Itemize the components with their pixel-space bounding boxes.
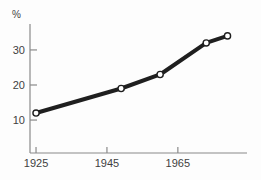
- data-point: [224, 33, 230, 39]
- line-chart: % 102030192519451965: [0, 0, 261, 180]
- x-tick-label: 1925: [24, 157, 48, 169]
- y-tick-label: 20: [13, 79, 25, 91]
- x-tick-label: 1965: [166, 157, 190, 169]
- data-point: [203, 40, 209, 46]
- y-tick-label: 30: [13, 44, 25, 56]
- data-point: [118, 85, 124, 91]
- x-tick-label: 1945: [95, 157, 119, 169]
- chart-svg: % 102030192519451965: [0, 0, 261, 180]
- data-point: [33, 110, 39, 116]
- y-tick-label: 10: [13, 114, 25, 126]
- y-axis-unit-label: %: [12, 9, 21, 20]
- data-point: [157, 71, 163, 77]
